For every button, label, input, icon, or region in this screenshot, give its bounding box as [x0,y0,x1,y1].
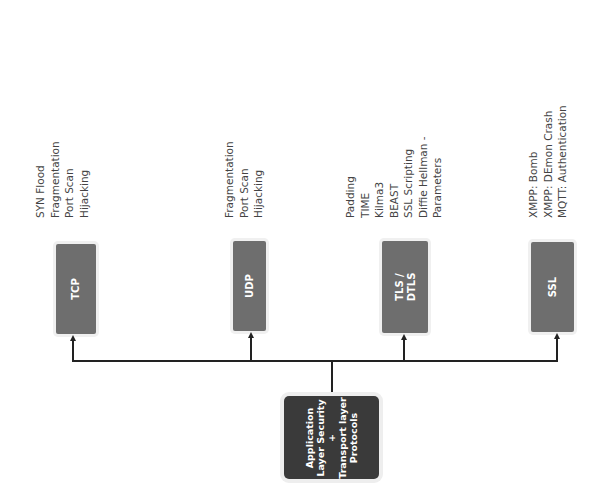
attack-item: Port Scan [237,141,252,218]
attack-item: Padding [343,136,358,218]
attack-item: TIME [358,136,373,218]
arrow-udp-icon [248,332,254,338]
arrow-ssl-icon [554,333,560,339]
connector-tls [403,339,405,361]
udp-attack-list: Fragmentation Port Scan Hijacking [222,141,266,218]
root-label-line: Application [304,397,315,479]
root-box: Application Layer Security + Transport l… [284,396,379,479]
ssl-attack-list: XMPP: Bomb XMPP: DEmon Crash MQTT: Authe… [526,105,570,218]
attack-item: MQTT: Authentication [555,105,570,218]
root-label-line: + [326,397,337,479]
connector-root [331,360,333,396]
attack-item: Fragmentation [48,141,63,218]
arrow-tls-icon [401,334,407,340]
arrow-tcp-icon [70,335,76,341]
tls-dtls-box: TLS / DTLS [382,241,428,333]
connector-ssl [556,338,558,361]
ssl-box: SSL [531,242,574,332]
attack-item: Hijacking [251,141,266,218]
tcp-attack-list: SYN Flood Fragmentation Port Scan Hijack… [33,141,91,218]
attack-item: Port Scan [62,141,77,218]
tls-attack-list: Padding TIME Kilma3 BEAST SSL Scripting … [343,136,445,218]
tcp-box: TCP [56,244,96,334]
root-label-line: Protocols [348,397,359,479]
attack-item: XMPP: Bomb [526,105,541,218]
tls-dtls-label: TLS / DTLS [394,273,417,302]
attack-item: Kilma3 [372,136,387,218]
attack-item: SSL Scripting [401,136,416,218]
attack-item: XMPP: DEmon Crash [541,105,556,218]
connector-tcp [72,340,74,361]
tcp-label: TCP [70,278,82,300]
attack-item: Diffie Hellman - [416,136,431,218]
attack-item: Fragmentation [222,141,237,218]
attack-item: Parameters [430,136,445,218]
tls-label-line: TLS / [394,273,406,302]
attack-item: Hijacking [77,141,92,218]
udp-label: UDP [244,274,256,298]
tls-label-line: DTLS [405,273,417,302]
connector-bus [72,360,558,362]
root-label-line: Layer Security [315,397,326,479]
attack-item: BEAST [387,136,402,218]
connector-udp [250,337,252,361]
root-label-line: Transport layer [337,397,348,479]
ssl-label: SSL [547,277,559,297]
udp-box: UDP [233,241,266,331]
attack-item: SYN Flood [33,141,48,218]
root-label: Application Layer Security + Transport l… [304,397,359,479]
